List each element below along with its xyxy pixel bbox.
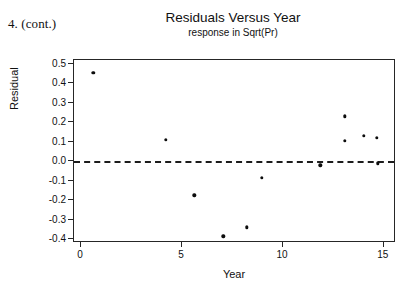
y-axis-tick-label: -0.1 [49, 174, 66, 185]
data-point [260, 176, 263, 179]
data-point [245, 226, 248, 229]
data-point [375, 136, 378, 139]
chart-title: Residuals Versus Year [118, 10, 348, 25]
y-axis-tick-label: -0.2 [49, 194, 66, 205]
data-point [192, 194, 195, 197]
data-point [319, 163, 322, 166]
y-axis-tick-label: 0.1 [52, 135, 66, 146]
x-axis-tick-label: 0 [77, 249, 83, 260]
x-axis-tick-label: 15 [377, 249, 388, 260]
data-point [222, 234, 225, 237]
x-axis-title: Year [73, 268, 395, 280]
y-axis: 0.50.40.30.20.10.0-0.1-0.2-0.3-0.4 [30, 59, 73, 242]
data-point [164, 138, 167, 141]
x-axis-tick [181, 242, 182, 247]
y-axis-tick-label: 0.3 [52, 96, 66, 107]
y-axis-tick-label: -0.4 [49, 233, 66, 244]
x-axis-tick [80, 242, 81, 247]
chart-subtitle: response in Sqrt(Pr) [118, 27, 348, 38]
x-axis-tick-label: 10 [276, 249, 287, 260]
y-axis-tick-label: -0.3 [49, 213, 66, 224]
y-axis-tick-label: 0.2 [52, 116, 66, 127]
data-point [343, 115, 346, 118]
data-point [362, 134, 365, 137]
y-axis-tick-label: 0.4 [52, 77, 66, 88]
x-axis-tick-label: 5 [178, 249, 184, 260]
plot-canvas [74, 60, 394, 241]
data-point [343, 139, 346, 142]
zero-reference-line [74, 161, 394, 163]
residual-plot-figure: 4. (cont.) Residuals Versus Year respons… [0, 0, 413, 294]
problem-number-label: 4. (cont.) [8, 16, 56, 32]
plot-area [73, 59, 395, 242]
x-axis-tick [383, 242, 384, 247]
data-point [91, 71, 94, 74]
x-axis-tick [282, 242, 283, 247]
y-axis-tick-label: 0.5 [52, 57, 66, 68]
y-axis-tick-label: 0.0 [52, 155, 66, 166]
data-point [376, 161, 379, 164]
y-axis-title: Residual [8, 67, 20, 110]
